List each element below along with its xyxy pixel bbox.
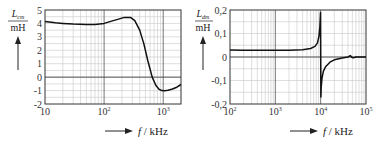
x-tick-label: 104	[314, 106, 327, 117]
x-axis-label: f / kHz	[138, 125, 168, 137]
y-tick-label: 5	[37, 5, 42, 16]
x-axis-arrow-icon	[310, 128, 318, 134]
y-tick-label: 0	[222, 52, 227, 63]
y-tick-label: -1	[34, 85, 42, 96]
y-axis-label-unit: mH	[196, 22, 211, 33]
x-tick-label: 102	[224, 106, 237, 117]
y-tick-label: 3	[37, 31, 42, 42]
y-axis-label-symbol: Lcm	[11, 8, 25, 20]
y-tick-label: 4	[37, 18, 42, 29]
y-axis-arrow-icon	[200, 36, 206, 44]
chart-lcm-canvas: 543210-1-210102103LcmmHf / kHz	[0, 0, 195, 142]
y-tick-label: 2	[37, 45, 42, 56]
chart-ldm: 0,20,10-0,1-0,2102103104105LdmmHf / kHz	[195, 0, 390, 142]
chart-lcm: 543210-1-210102103LcmmHf / kHz	[0, 0, 195, 142]
x-tick-label: 103	[157, 106, 170, 117]
x-tick-label: 102	[98, 106, 111, 117]
x-axis-arrow-icon	[125, 128, 133, 134]
data-curve-l_dm	[230, 12, 366, 97]
x-axis-label: f / kHz	[323, 125, 353, 137]
x-tick-label: 105	[360, 106, 373, 117]
y-axis-label-unit: mH	[11, 22, 26, 33]
y-tick-label: -0,1	[211, 75, 227, 86]
chart-ldm-canvas: 0,20,10-0,1-0,2102103104105LdmmHf / kHz	[195, 0, 390, 142]
x-tick-label: 103	[269, 106, 282, 117]
y-tick-label: 0	[37, 72, 42, 83]
y-axis-arrow-icon	[15, 36, 21, 44]
y-tick-label: 0,1	[215, 28, 228, 39]
y-tick-label: 1	[37, 58, 42, 69]
y-tick-label: 0,2	[215, 5, 228, 16]
x-tick-label: 10	[40, 106, 50, 117]
y-axis-label-symbol: Ldm	[196, 8, 211, 20]
